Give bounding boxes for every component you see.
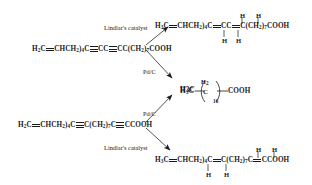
h-label-top-above-2: H [256, 13, 261, 20]
product-top-seg3: CC [221, 22, 232, 30]
double-bond-glyph [169, 157, 177, 163]
pd-c-lower-label: Pd/C [143, 111, 156, 117]
double-bond-glyph [232, 23, 240, 29]
h-label-top-below-2: H [236, 38, 241, 45]
reaction-scheme-diagram: H2CCHCH2)4CCCCC(CH2)7COOH H2CCHCH2)4CC(C… [0, 0, 312, 185]
bottom-right-product: H3CCHCH2)4CC(CH2)7CCCOOH [155, 157, 289, 164]
top-left-reactant: H2CCHCH2)4CCCCC(CH2)7COOH [32, 46, 172, 53]
double-bond-glyph [213, 23, 221, 29]
product-bottom-seg3: C(CH2)7C [221, 156, 253, 164]
triple-bond-glyph [116, 122, 124, 128]
reactant-top-seg3: CC [98, 45, 109, 53]
arrow-lindlar-bottom [146, 128, 170, 150]
double-bond-glyph [253, 157, 261, 163]
h-label-bottom-above-1: H [256, 147, 261, 154]
pd-c-upper-label: Pd/C [143, 69, 156, 75]
h-label-bottom-above-2: H [272, 147, 277, 154]
h-label-top-below-1: H [222, 38, 227, 45]
double-bond-glyph [46, 46, 54, 52]
lindlar-catalyst-top-label: Lindlar's catalyst [104, 25, 148, 31]
top-right-product: H3CCHCH2)4CCCC(CH2)7COOH [155, 23, 289, 30]
reactant-top-seg2: CHCH2)4C [54, 45, 89, 53]
h-label-bottom-below-2: H [224, 172, 229, 179]
center-repeat-h2: H2 [201, 79, 209, 85]
h-label-bottom-below-1: H [206, 172, 211, 179]
reactant-bottom-seg2: CHCH2)4C [40, 121, 75, 129]
product-bottom-seg2: CHCH2)4C [177, 156, 212, 164]
center-left-group: H3C [180, 88, 194, 95]
reactant-top-seg1: H2C [32, 45, 46, 53]
center-repeat-count: 16 [213, 99, 218, 104]
double-bond-glyph [213, 157, 221, 163]
triple-bond-glyph [76, 122, 84, 128]
reactant-bottom-seg1: H2C [18, 121, 32, 129]
lindlar-catalyst-bottom-label: Lindlar's catalyst [104, 145, 148, 151]
h-label-top-above-1: H [240, 13, 245, 20]
triple-bond-glyph [109, 46, 117, 52]
product-top-seg1: H3C [155, 22, 169, 30]
double-bond-glyph [32, 122, 40, 128]
product-top-seg2: CHCH2)4C [177, 22, 212, 30]
product-bottom-seg1: H3C [155, 156, 169, 164]
bottom-left-reactant: H2CCHCH2)4CC(CH2)7CCCOOH [18, 122, 152, 129]
product-top-seg4: C(CH2)7COOH [240, 22, 289, 30]
reactant-top-seg4: CC(CH2)7COOH [117, 45, 171, 53]
reactant-bottom-seg3: C(CH2)7C [84, 121, 116, 129]
reactant-bottom-seg4: CCOOH [125, 121, 153, 129]
arrow-pdc-lower [146, 95, 172, 122]
double-bond-glyph [169, 23, 177, 29]
center-repeat-c: C [203, 89, 208, 96]
triple-bond-glyph [90, 46, 98, 52]
product-bottom-seg4: CCOOH [262, 156, 290, 164]
center-product-right: COOH [228, 88, 250, 95]
